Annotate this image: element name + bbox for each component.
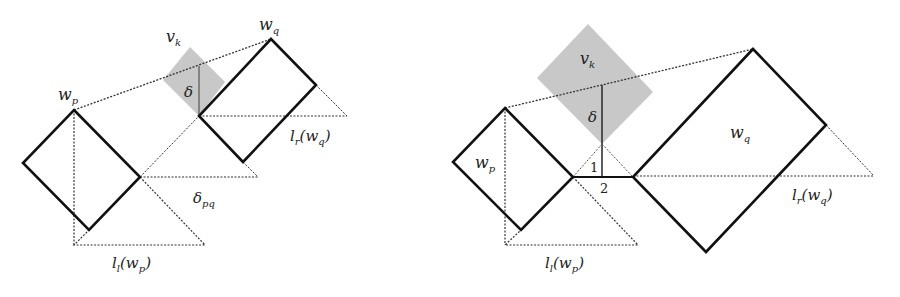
left-panel: wp wq vk δ δpq lr(wq) ll(wp) bbox=[23, 15, 347, 274]
left-wp-square bbox=[23, 110, 140, 230]
right-panel: wp wq vk δ 1 2 lr(wq) ll(wp) bbox=[453, 24, 874, 274]
right-triangle-right-edge bbox=[602, 144, 633, 177]
left-lr-diagonal-dotted bbox=[316, 85, 347, 116]
left-pq-diagonal-dotted bbox=[140, 116, 199, 177]
right-ll-triangle bbox=[505, 177, 638, 245]
right-lr-diagonal-dotted bbox=[826, 125, 874, 176]
left-wq-bottom-dotted bbox=[243, 162, 258, 177]
left-label-delta: δ bbox=[184, 83, 193, 101]
right-label-lr-wq: lr(wq) bbox=[792, 186, 833, 206]
left-vk-shaded-square bbox=[163, 47, 225, 116]
right-vk-shaded-square bbox=[537, 24, 653, 144]
left-label-wp: wp bbox=[58, 85, 79, 106]
right-label-delta: δ bbox=[588, 108, 597, 126]
right-label-angle-2: 2 bbox=[600, 181, 608, 196]
left-label-ll-wp: ll(wp) bbox=[112, 254, 151, 274]
left-label-vk: vk bbox=[166, 27, 181, 48]
left-ll-triangle bbox=[74, 177, 205, 245]
right-label-wq: wq bbox=[730, 123, 750, 144]
left-label-wq: wq bbox=[259, 15, 279, 36]
left-label-lr-wq: lr(wq) bbox=[290, 127, 331, 147]
right-label-angle-1: 1 bbox=[590, 160, 598, 175]
right-label-wp: wp bbox=[475, 153, 496, 174]
right-wp-square bbox=[453, 108, 573, 230]
right-wq-square bbox=[633, 49, 826, 252]
right-label-ll-wp: ll(wp) bbox=[545, 254, 584, 274]
diagram-canvas: wp wq vk δ δpq lr(wq) ll(wp) wp wq vk δ bbox=[0, 0, 900, 297]
left-label-delta-pq: δpq bbox=[193, 189, 215, 209]
